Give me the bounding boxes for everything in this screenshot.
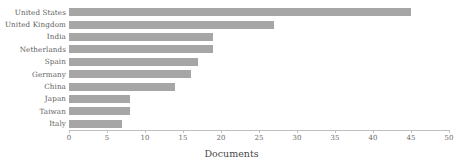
x-tick-label: 45 [407, 135, 416, 142]
x-tick-label: 50 [445, 135, 454, 142]
bar [69, 45, 213, 53]
plot-area [69, 6, 449, 130]
bar [69, 120, 122, 128]
category-label: Germany [32, 71, 66, 78]
x-tick-mark [449, 130, 450, 133]
category-label: United States [15, 9, 66, 16]
bar-row [69, 120, 449, 128]
x-tick-mark [221, 130, 222, 133]
category-label: United Kingdom [5, 21, 66, 28]
x-tick-label: 15 [179, 135, 188, 142]
x-tick-mark [259, 130, 260, 133]
x-tick-mark [183, 130, 184, 133]
x-axis-title: Documents [0, 149, 463, 159]
x-tick-mark [335, 130, 336, 133]
bar-row [69, 8, 449, 16]
x-tick-label: 10 [141, 135, 150, 142]
bar-row [69, 58, 449, 66]
category-label: China [44, 83, 66, 90]
category-label: Taiwan [40, 108, 67, 115]
category-label: Netherlands [20, 46, 66, 53]
x-tick-label: 5 [105, 135, 109, 142]
bar [69, 33, 213, 41]
bar-row [69, 70, 449, 78]
bar-row [69, 21, 449, 29]
x-tick-label: 30 [293, 135, 302, 142]
category-label: Spain [45, 58, 66, 65]
category-label: Japan [45, 95, 66, 102]
bar [69, 95, 130, 103]
bar [69, 21, 274, 29]
x-tick-mark [411, 130, 412, 133]
bar-row [69, 83, 449, 91]
bar [69, 70, 191, 78]
x-tick-label: 35 [331, 135, 340, 142]
category-label: Italy [49, 120, 66, 127]
bar [69, 83, 175, 91]
bar [69, 107, 130, 115]
category-label: India [47, 33, 66, 40]
bar-chart: United StatesUnited KingdomIndiaNetherla… [0, 0, 463, 167]
bar-row [69, 45, 449, 53]
bar [69, 58, 198, 66]
bar-row [69, 95, 449, 103]
bar-row [69, 107, 449, 115]
x-tick-label: 40 [369, 135, 378, 142]
x-tick-mark [297, 130, 298, 133]
x-tick-label: 25 [255, 135, 264, 142]
x-tick-mark [373, 130, 374, 133]
category-axis-labels: United StatesUnited KingdomIndiaNetherla… [0, 6, 66, 130]
bar [69, 8, 411, 16]
x-tick-label: 20 [217, 135, 226, 142]
x-tick-label: 0 [67, 135, 71, 142]
x-tick-mark [107, 130, 108, 133]
bar-row [69, 33, 449, 41]
x-tick-mark [69, 130, 70, 133]
x-tick-mark [145, 130, 146, 133]
